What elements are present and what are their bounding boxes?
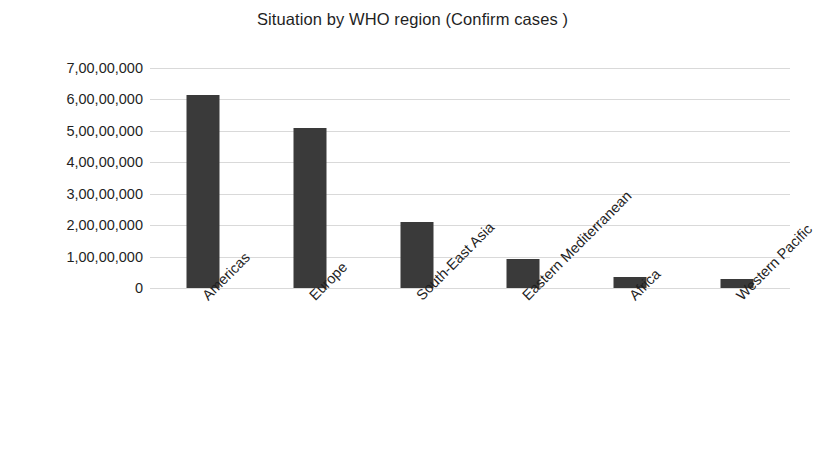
y-axis-tick-label: 0 xyxy=(0,280,143,296)
y-axis-tick-label: 1,00,00,000 xyxy=(0,249,143,265)
bar-slot xyxy=(577,68,684,288)
y-axis-tick-label: 4,00,00,000 xyxy=(0,154,143,170)
chart-title: Situation by WHO region (Confirm cases ) xyxy=(0,10,825,29)
bar-slot xyxy=(257,68,364,288)
gridline xyxy=(150,288,790,289)
y-axis-tick-label: 6,00,00,000 xyxy=(0,91,143,107)
bar[interactable] xyxy=(187,95,220,288)
y-axis-tick-label: 3,00,00,000 xyxy=(0,186,143,202)
y-axis-tick-label: 2,00,00,000 xyxy=(0,217,143,233)
bar-chart: Situation by WHO region (Confirm cases )… xyxy=(0,0,825,462)
y-axis-tick-label: 5,00,00,000 xyxy=(0,123,143,139)
bar[interactable] xyxy=(293,128,326,288)
y-axis-tick-label: 7,00,00,000 xyxy=(0,60,143,76)
x-axis-labels: AmericasEuropeSouth-East AsiaEastern Med… xyxy=(150,292,790,452)
